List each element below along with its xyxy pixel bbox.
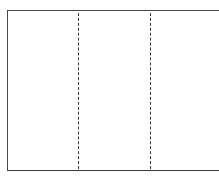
fold-line-left — [78, 13, 79, 169]
trifold-outline — [7, 10, 219, 171]
fold-line-right — [150, 13, 151, 169]
